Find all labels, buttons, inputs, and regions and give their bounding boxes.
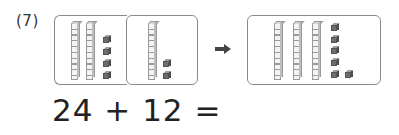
unit-cube [163, 61, 169, 67]
addend-box-second [126, 15, 198, 85]
ten-rod [274, 23, 281, 80]
ten-rod [148, 23, 155, 80]
unit-cube [103, 61, 109, 67]
unit-cube [331, 72, 337, 78]
addition-equation: 24 + 12 = [52, 92, 221, 128]
unit-cube [331, 37, 337, 43]
unit-cube [163, 73, 169, 79]
ten-rod [293, 23, 300, 80]
unit-cube [103, 37, 109, 43]
unit-cube [103, 49, 109, 55]
unit-cube [103, 73, 109, 79]
ten-rod [312, 23, 319, 80]
ten-rod [86, 23, 93, 80]
sum-result-box [247, 15, 381, 85]
unit-cube [331, 48, 337, 54]
ten-rod [71, 23, 78, 80]
problem-number-label: (7) [16, 12, 39, 30]
unit-cube [331, 60, 337, 66]
unit-cube [345, 72, 351, 78]
right-arrow-icon [215, 44, 231, 54]
addend-box-first [54, 15, 127, 85]
unit-cube [331, 25, 337, 31]
